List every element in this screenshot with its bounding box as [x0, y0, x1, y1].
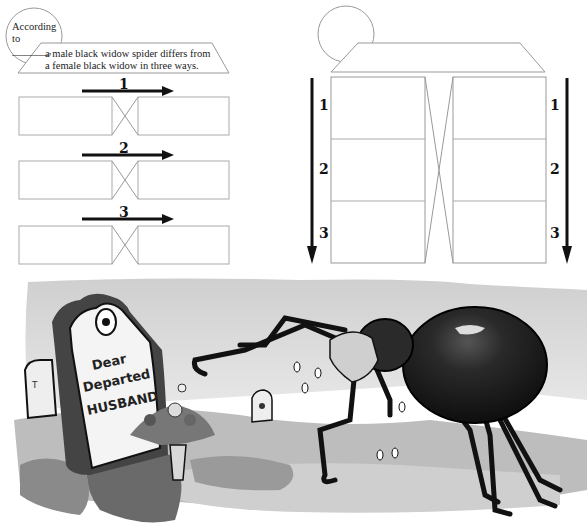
- row3-right-answer-box[interactable]: [139, 227, 228, 263]
- col-right-label-3: 3: [550, 225, 560, 241]
- col-left-label-3: 3: [319, 225, 329, 241]
- source-prompt-line1: According: [12, 21, 58, 33]
- left-col-cell-2[interactable]: [332, 140, 424, 200]
- right-title-box[interactable]: [360, 45, 520, 71]
- row3-left-answer-box[interactable]: [20, 227, 111, 263]
- row2-left-answer-box[interactable]: [20, 162, 111, 198]
- col-left-label-2: 2: [319, 161, 329, 177]
- col-right-label-2: 2: [550, 161, 560, 177]
- svg-text:T: T: [31, 380, 38, 390]
- col-left-label-1: 1: [319, 97, 329, 113]
- main-idea: a male black widow spider differs from a…: [45, 48, 225, 72]
- row2-right-answer-box[interactable]: [139, 162, 228, 198]
- main-idea-line2: a female black widow in three ways.: [45, 60, 225, 72]
- row1-left-answer-box[interactable]: [20, 98, 111, 134]
- right-col-cell-3[interactable]: [454, 202, 545, 262]
- right-col-cell-2[interactable]: [454, 140, 545, 200]
- row-number-2: 2: [119, 140, 129, 156]
- spider-graveyard-drawing: T Dear Departed HUSBAND: [0, 270, 587, 528]
- left-col-cell-3[interactable]: [332, 202, 424, 262]
- row-number-3: 3: [119, 204, 129, 220]
- cartoon-illustration: T Dear Departed HUSBAND: [0, 270, 587, 528]
- col-right-label-1: 1: [550, 97, 560, 113]
- left-col-cell-1[interactable]: [332, 78, 424, 138]
- spider-abdomen: [403, 307, 547, 423]
- row-number-1: 1: [119, 76, 129, 92]
- right-col-cell-1[interactable]: [454, 78, 545, 138]
- row1-right-answer-box[interactable]: [139, 98, 228, 134]
- main-idea-line1: a male black widow spider differs from: [45, 48, 225, 60]
